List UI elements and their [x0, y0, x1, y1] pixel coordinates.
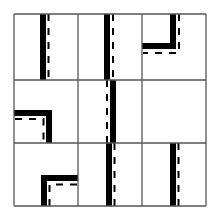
solid-bar	[142, 43, 176, 49]
cell-r2-c2	[78, 80, 142, 143]
cell-r1-c1	[14, 14, 78, 80]
solid-bar	[41, 175, 47, 206]
cell-r1-c3	[142, 14, 206, 80]
solid-bar	[46, 110, 52, 143]
cell-r3-c2	[78, 143, 142, 206]
cells-layer	[14, 14, 206, 206]
cell-r1-c2	[78, 14, 142, 80]
solid-bar	[170, 143, 176, 206]
cell-r3-c3	[142, 143, 206, 206]
solid-bar	[106, 143, 112, 206]
solid-bar	[40, 14, 46, 80]
cell-r2-c1	[14, 80, 78, 143]
cell-r3-c1	[14, 143, 78, 206]
cell-background	[142, 80, 206, 143]
pattern-puzzle-grid	[0, 0, 222, 222]
cell-r2-c3	[142, 80, 206, 143]
solid-bar	[104, 14, 110, 80]
solid-bar	[110, 80, 116, 143]
